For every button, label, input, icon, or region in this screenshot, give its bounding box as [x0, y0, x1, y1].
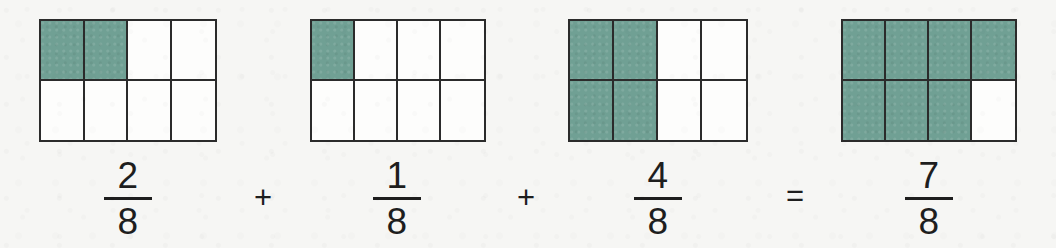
fraction-model-3: [568, 19, 748, 142]
model-cell-empty: [702, 81, 746, 141]
model-cell-shaded: [886, 81, 929, 141]
model-cell-shaded: [929, 81, 972, 141]
model-cell-empty: [398, 81, 441, 141]
fraction-denominator: 8: [884, 202, 974, 242]
model-cell-shaded: [312, 21, 355, 81]
fraction-denominator: 8: [352, 202, 442, 242]
fraction-numerator: 1: [352, 156, 442, 196]
fraction-model-2: [310, 19, 486, 142]
fraction-model-1: [39, 19, 217, 142]
model-cell-shaded: [85, 21, 129, 81]
fraction-bar: [373, 197, 421, 200]
model-cell-empty: [702, 21, 746, 81]
fraction-numerator: 7: [884, 156, 974, 196]
fraction-numerator: 4: [613, 156, 703, 196]
model-cell-empty: [355, 21, 398, 81]
fraction-bar: [634, 197, 682, 200]
model-cell-empty: [128, 81, 172, 141]
model-cell-empty: [172, 81, 216, 141]
model-cell-empty: [398, 21, 441, 81]
model-cell-empty: [41, 81, 85, 141]
fraction-bar: [905, 197, 953, 200]
fraction-label-1: 2 8: [83, 156, 173, 242]
model-cell-empty: [312, 81, 355, 141]
fraction-label-2: 1 8: [352, 156, 442, 242]
model-cell-empty: [658, 21, 702, 81]
fraction-numerator: 2: [83, 156, 173, 196]
fraction-denominator: 8: [613, 202, 703, 242]
fraction-denominator: 8: [83, 202, 173, 242]
model-cell-empty: [441, 21, 484, 81]
plus-operator-1: +: [243, 181, 283, 215]
model-cell-empty: [972, 81, 1015, 141]
model-cell-shaded: [614, 81, 658, 141]
fraction-equation-row: 2 8 1 8 4 8 7 8 + + =: [0, 0, 1056, 248]
model-cell-shaded: [41, 21, 85, 81]
model-cell-shaded: [570, 21, 614, 81]
model-cell-shaded: [614, 21, 658, 81]
model-cell-empty: [355, 81, 398, 141]
model-cell-shaded: [843, 81, 886, 141]
fraction-label-3: 4 8: [613, 156, 703, 242]
equals-operator: =: [775, 179, 815, 213]
fraction-bar: [104, 197, 152, 200]
plus-operator-2: +: [506, 181, 546, 215]
fraction-label-4-result: 7 8: [884, 156, 974, 242]
model-cell-shaded: [886, 21, 929, 81]
model-cell-empty: [658, 81, 702, 141]
model-cell-shaded: [570, 81, 614, 141]
model-cell-shaded: [929, 21, 972, 81]
model-cell-empty: [441, 81, 484, 141]
model-cell-shaded: [843, 21, 886, 81]
model-cell-empty: [172, 21, 216, 81]
model-cell-empty: [128, 21, 172, 81]
model-cell-empty: [85, 81, 129, 141]
fraction-model-4-result: [841, 19, 1017, 142]
model-cell-shaded: [972, 21, 1015, 81]
